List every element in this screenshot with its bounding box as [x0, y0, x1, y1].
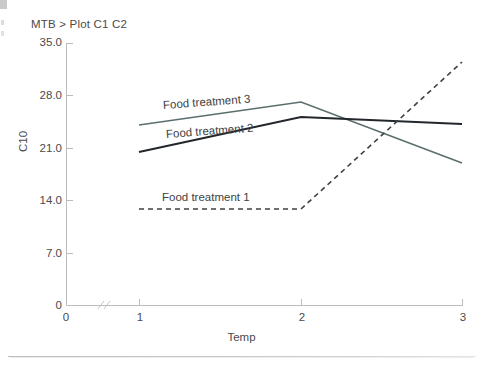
x-tick-label-3: 3: [460, 311, 466, 323]
chart-plot-area: 35.0 28.0 21.0 14.0 7.0 0 0 1 2 3 C10 Te…: [0, 0, 483, 340]
y-tick-label-28: 28.0: [18, 89, 62, 101]
x-axis-title: Temp: [0, 331, 483, 343]
footer-divider-shadow: [10, 357, 474, 358]
x-tick-label-0: 0: [63, 311, 69, 323]
y-tick-label-35: 35.0: [18, 36, 62, 48]
series-label-food-treatment-1: Food treatment 1: [162, 191, 250, 203]
y-tick-label-0: 0: [18, 299, 62, 311]
y-axis-title: C10: [17, 131, 29, 152]
x-tick-label-1: 1: [137, 311, 143, 323]
y-tick-label-14: 14.0: [18, 194, 62, 206]
chart-svg: [0, 0, 483, 340]
x-tick-label-2: 2: [299, 311, 305, 323]
y-tick-label-7: 7.0: [18, 247, 62, 259]
